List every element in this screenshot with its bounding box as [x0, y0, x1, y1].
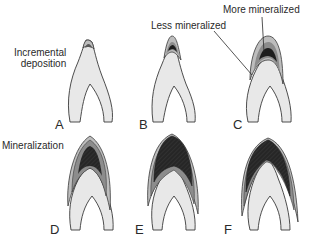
annotation-incremental-deposition: Incremental deposition — [14, 47, 66, 69]
annotation-more-mineralized: More mineralized — [223, 4, 300, 15]
leader-line-less-mineralized — [214, 31, 252, 75]
annotation-less-mineralized: Less mineralized — [151, 20, 226, 31]
panel-label-c: C — [233, 117, 242, 132]
panel-b-tooth — [152, 36, 195, 122]
panel-f-tooth — [242, 138, 298, 230]
panel-a-tooth — [68, 40, 112, 122]
annotation-mineralization: Mineralization — [2, 140, 64, 151]
dentin-shape — [68, 40, 112, 122]
tooth-development-diagram — [0, 0, 309, 238]
panel-e-tooth — [148, 134, 199, 230]
dentin-shape — [152, 48, 195, 122]
panel-label-f: F — [224, 222, 232, 237]
annotation-line-1: Incremental — [14, 47, 66, 58]
panel-d-tooth — [68, 136, 113, 230]
panel-label-d: D — [50, 222, 59, 237]
panel-label-b: B — [139, 117, 148, 132]
panel-label-e: E — [135, 222, 144, 237]
annotation-line-2: deposition — [14, 58, 66, 69]
panel-label-a: A — [55, 117, 64, 132]
panel-c-tooth — [214, 17, 291, 122]
